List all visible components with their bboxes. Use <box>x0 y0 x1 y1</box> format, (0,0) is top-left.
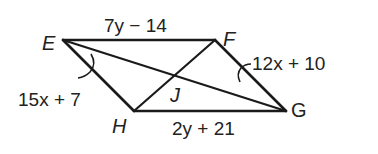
segment-EF-expression: 7y − 14 <box>104 15 167 36</box>
vertex-label-G: G <box>291 99 307 121</box>
angle-G-expression: 12x + 10 <box>252 53 325 74</box>
segment-HG-expression: 2y + 21 <box>172 118 235 139</box>
angle-E-expression: 15x + 7 <box>18 89 81 110</box>
parallelogram-diagram: E F G H J 7y − 14 2y + 21 15x + 7 12x + … <box>0 0 378 154</box>
vertex-label-E: E <box>42 32 56 54</box>
vertex-label-F: F <box>223 28 237 50</box>
vertex-label-J: J <box>169 84 181 106</box>
vertex-label-H: H <box>112 115 127 137</box>
